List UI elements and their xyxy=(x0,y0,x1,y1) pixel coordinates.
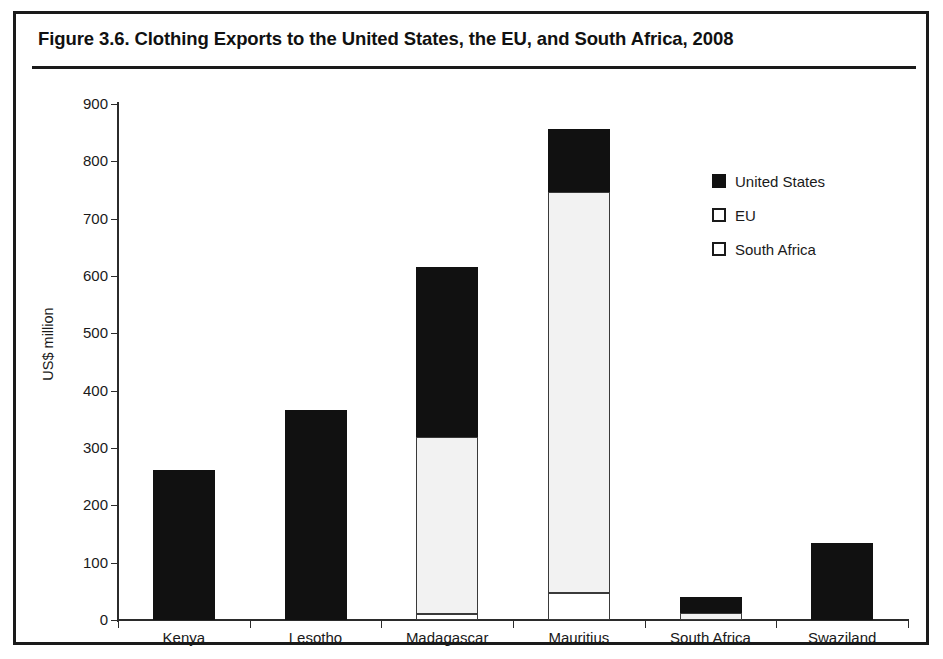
x-axis-category-label: South Africa xyxy=(645,629,777,646)
title-divider xyxy=(32,66,916,69)
x-axis-tick xyxy=(908,620,909,628)
x-axis-category-label: Kenya xyxy=(118,629,250,646)
y-axis-tick-label: 500 xyxy=(60,324,108,341)
bar-segment-united-states[interactable] xyxy=(416,267,478,436)
x-axis-category-label: Lesotho xyxy=(250,629,382,646)
y-axis-tick-label: 400 xyxy=(60,382,108,399)
y-axis-tick xyxy=(111,104,118,105)
y-axis-tick xyxy=(111,161,118,162)
legend-item[interactable]: EU xyxy=(712,198,892,232)
bar-segment-united-states[interactable] xyxy=(153,470,215,620)
y-axis-tick xyxy=(111,620,118,621)
bar-stack[interactable] xyxy=(811,543,873,620)
bar-segment-united-states[interactable] xyxy=(811,543,873,620)
bar-segment-south-africa[interactable] xyxy=(416,614,478,620)
bar-segment-united-states[interactable] xyxy=(680,597,742,612)
bar-segment-united-states[interactable] xyxy=(285,410,347,620)
bar-segment-eu[interactable] xyxy=(548,192,610,593)
bar-stack[interactable] xyxy=(548,129,610,620)
y-axis-tick-label: 800 xyxy=(60,152,108,169)
legend-swatch-south-africa xyxy=(712,242,726,256)
y-axis-tick-label: 900 xyxy=(60,95,108,112)
figure-title: Figure 3.6. Clothing Exports to the Unit… xyxy=(38,28,733,50)
x-axis-tick xyxy=(250,620,251,628)
legend-swatch-united-states xyxy=(712,174,726,188)
bar-segment-eu[interactable] xyxy=(680,613,742,620)
chart-legend: United StatesEUSouth Africa xyxy=(712,164,892,266)
legend-item-label: United States xyxy=(735,173,825,190)
x-axis-tick xyxy=(118,620,119,628)
x-axis-category-label: Mauritius xyxy=(513,629,645,646)
y-axis-tick-labels: 0100200300400500600700800900 xyxy=(50,0,108,659)
legend-item[interactable]: United States xyxy=(712,164,892,198)
bar-stack[interactable] xyxy=(285,410,347,620)
bar-stack[interactable] xyxy=(153,470,215,620)
x-axis-category-label: Swaziland xyxy=(776,629,908,646)
y-axis-tick xyxy=(111,391,118,392)
y-axis-tick xyxy=(111,219,118,220)
bar-segment-south-africa[interactable] xyxy=(548,593,610,620)
legend-item[interactable]: South Africa xyxy=(712,232,892,266)
y-axis-tick xyxy=(111,448,118,449)
y-axis-tick-label: 700 xyxy=(60,210,108,227)
y-axis-tick xyxy=(111,563,118,564)
y-axis-tick-label: 100 xyxy=(60,554,108,571)
bar-stack[interactable] xyxy=(680,597,742,620)
legend-swatch-eu xyxy=(712,208,726,222)
bar-stack[interactable] xyxy=(416,267,478,620)
y-axis-tick-label: 600 xyxy=(60,267,108,284)
x-axis-tick xyxy=(381,620,382,628)
y-axis-tick xyxy=(111,333,118,334)
y-axis-tick-label: 0 xyxy=(60,611,108,628)
y-axis-title: US$ million xyxy=(40,274,56,414)
bar-segment-eu[interactable] xyxy=(416,437,478,615)
x-axis-category-label: Madagascar xyxy=(381,629,513,646)
x-axis-tick xyxy=(776,620,777,628)
legend-item-label: EU xyxy=(735,207,756,224)
x-axis-tick xyxy=(645,620,646,628)
x-axis-tick xyxy=(513,620,514,628)
y-axis-tick xyxy=(111,276,118,277)
y-axis-tick-label: 300 xyxy=(60,439,108,456)
y-axis-tick xyxy=(111,505,118,506)
y-axis-tick-label: 200 xyxy=(60,496,108,513)
legend-item-label: South Africa xyxy=(735,241,816,258)
bar-segment-united-states[interactable] xyxy=(548,129,610,192)
